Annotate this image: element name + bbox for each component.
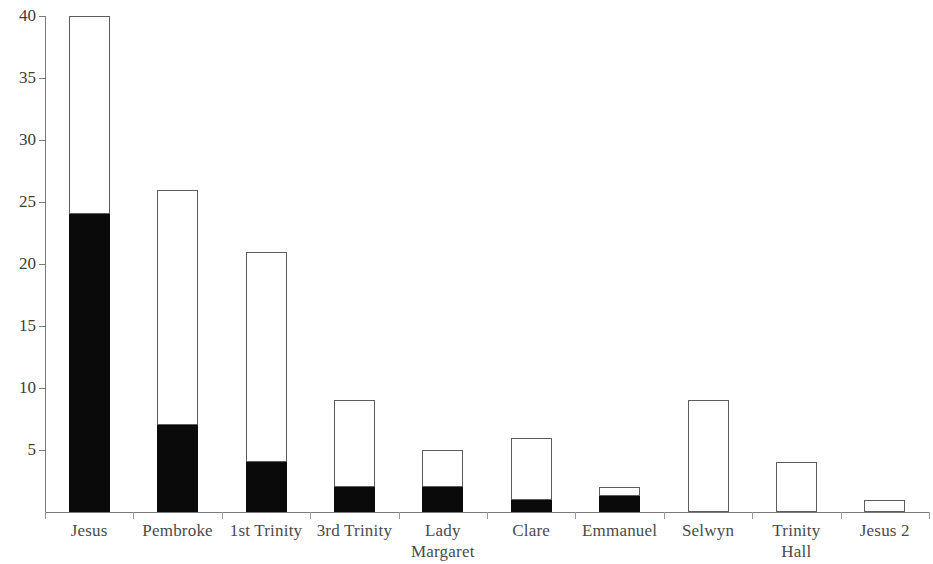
y-axis-tick-label: 5 [2,441,36,458]
bar-jesus [69,16,110,512]
y-axis-tick-label-wrap: 5 [0,441,36,458]
bar-segment-white [69,16,110,214]
category-label-jesus-2: Jesus 2 [841,520,929,541]
bar-segment-white [422,450,463,487]
x-axis-tick [222,512,223,519]
x-axis-tick [399,512,400,519]
plot-area: 510152025303540 JesusPembroke1st Trinity… [0,0,933,564]
category-label-line: Jesus 2 [860,521,910,540]
bar-segment-black [157,425,198,512]
y-axis-tick-label: 30 [2,131,36,148]
y-axis-tick-label-wrap: 10 [0,379,36,396]
y-axis-tick [39,264,46,265]
category-label-line: Jesus [71,521,108,540]
category-label-line: Trinity [772,521,820,540]
category-label-pembroke: Pembroke [133,520,221,541]
y-axis-tick-label: 10 [2,379,36,396]
category-label-line: Lady [425,521,461,540]
bar-segment-white [864,500,905,512]
bar-1st-trinity [246,252,287,512]
y-axis-tick-label-wrap: 40 [0,7,36,24]
x-axis-tick [752,512,753,519]
category-label-line: Pembroke [142,521,213,540]
bar-segment-black [334,487,375,512]
y-axis-tick [39,140,46,141]
y-axis-tick-label-wrap: 30 [0,131,36,148]
bar-lady-margaret [422,450,463,512]
bar-segment-white [157,190,198,426]
bar-segment-black [246,462,287,512]
bar-segment-black [511,500,552,512]
x-axis-tick [929,512,930,519]
y-axis-tick-label: 20 [2,255,36,272]
y-axis-tick [39,388,46,389]
bar-segment-white [599,487,640,496]
bar-emmanuel [599,487,640,512]
bar-trinity-hall [776,462,817,512]
category-label-trinity-hall: TrinityHall [752,520,840,562]
y-axis-tick [39,450,46,451]
category-label-line: Selwyn [682,521,734,540]
stacked-bar-chart: 510152025303540 JesusPembroke1st Trinity… [0,0,933,564]
y-axis-tick-label: 25 [2,193,36,210]
bar-segment-black [69,214,110,512]
category-label-line: Emmanuel [582,521,657,540]
x-axis-tick [575,512,576,519]
y-axis-tick-label-wrap: 35 [0,69,36,86]
bar-jesus-2 [864,500,905,512]
bar-segment-white [246,252,287,463]
category-label-1st-trinity: 1st Trinity [222,520,310,541]
y-axis-tick-label: 35 [2,69,36,86]
y-axis-tick [39,202,46,203]
y-axis-tick [39,16,46,17]
y-axis-tick [39,326,46,327]
category-label-3rd-trinity: 3rd Trinity [310,520,398,541]
bar-segment-white [776,462,817,512]
bar-segment-black [599,496,640,512]
category-label-clare: Clare [487,520,575,541]
x-axis-tick [841,512,842,519]
x-axis-tick [664,512,665,519]
y-axis-tick-label-wrap: 15 [0,317,36,334]
category-label-line: Clare [512,521,550,540]
category-label-emmanuel: Emmanuel [575,520,663,541]
y-axis-tick-label-wrap: 25 [0,193,36,210]
x-axis-tick [45,512,46,519]
category-label-line: Margaret [399,541,487,562]
bar-pembroke [157,190,198,512]
y-axis-tick-label-wrap: 20 [0,255,36,272]
bar-segment-white [511,438,552,500]
category-label-lady-margaret: LadyMargaret [399,520,487,562]
bar-segment-white [334,400,375,487]
category-label-line: Hall [752,541,840,562]
bar-segment-white [688,400,729,512]
category-label-selwyn: Selwyn [664,520,752,541]
category-label-line: 1st Trinity [230,521,303,540]
y-axis-tick-label: 15 [2,317,36,334]
x-axis-tick [310,512,311,519]
category-label-jesus: Jesus [45,520,133,541]
category-label-line: 3rd Trinity [317,521,392,540]
bar-3rd-trinity [334,400,375,512]
x-axis-tick [487,512,488,519]
x-axis-tick [133,512,134,519]
y-axis-tick [39,78,46,79]
bar-clare [511,438,552,512]
y-axis-tick-label: 40 [2,7,36,24]
bar-selwyn [688,400,729,512]
bar-segment-black [422,487,463,512]
